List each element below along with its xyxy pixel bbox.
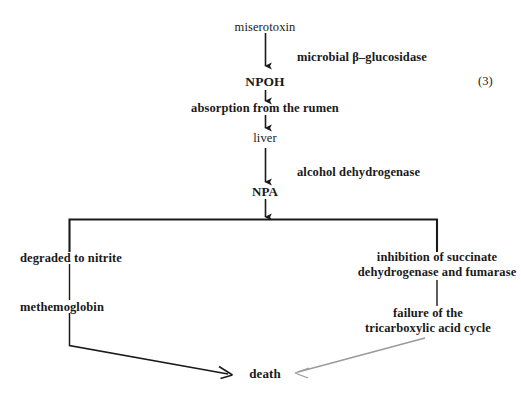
- node-absorption: absorption from the rumen: [191, 101, 339, 116]
- label-microbial-glucosidase: microbial β–glucosidase: [297, 50, 427, 65]
- node-liver: liver: [253, 131, 276, 146]
- equation-number: (3): [478, 74, 493, 89]
- node-failure-tca-cycle: failure of the tricarboxylic acid cycle: [365, 306, 491, 337]
- node-failure-line-1: failure of the: [365, 306, 491, 321]
- node-npoh: NPOH: [245, 74, 284, 90]
- node-failure-line-2: tricarboxylic acid cycle: [365, 321, 491, 336]
- label-alcohol-dehydrogenase: alcohol dehydrogenase: [297, 165, 420, 180]
- pathway-diagram: miserotoxin microbial β–glucosidase (3) …: [0, 0, 521, 399]
- node-miserotoxin: miserotoxin: [235, 20, 296, 35]
- branch-bracket: [70, 220, 438, 253]
- connector-lines: [0, 0, 521, 399]
- node-methemoglobin: methemoglobin: [20, 300, 104, 315]
- arrow-failure-to-death: [298, 338, 425, 372]
- node-degraded-to-nitrite: degraded to nitrite: [20, 251, 122, 266]
- node-npa: NPA: [252, 184, 278, 199]
- arrow-methemoglobin-to-death: [70, 313, 229, 374]
- node-inhibition-line-1: inhibition of succinate: [358, 250, 517, 265]
- node-inhibition-line-2: dehydrogenase and fumarase: [358, 265, 517, 280]
- node-death: death: [249, 366, 281, 381]
- node-inhibition-succinate: inhibition of succinate dehydrogenase an…: [358, 250, 517, 281]
